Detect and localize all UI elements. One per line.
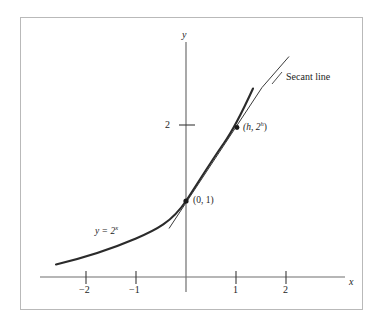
secant-line: [169, 88, 262, 229]
exponential-curve: [56, 89, 253, 265]
x-tick-label-1: 1: [233, 285, 238, 295]
point-secant-marker: [235, 125, 240, 130]
curve-label-base: y = 2: [95, 226, 115, 236]
secant-line-extension: [262, 57, 289, 88]
secant-point-suffix: ): [264, 122, 267, 132]
y-axis-label: y: [182, 30, 186, 40]
curve-label-exponent: x: [115, 224, 118, 231]
secant-point-label: (h, 2h): [243, 123, 267, 133]
figure-container: −2 −1 1 2 2 x y y = 2x Secant line (0, 1…: [0, 0, 380, 326]
x-axis-label: x: [349, 277, 353, 287]
curve-label: y = 2x: [95, 227, 118, 237]
x-tick-label-minus2: −2: [79, 285, 90, 295]
origin-point-label: (0, 1): [193, 196, 214, 206]
x-tick-label-2: 2: [283, 285, 288, 295]
y-tick-label-2: 2: [165, 120, 170, 130]
x-tick-label-minus1: −1: [129, 285, 140, 295]
secant-point-base: (h, 2: [243, 122, 260, 132]
graph-canvas: [0, 0, 380, 326]
point-origin-marker: [183, 198, 188, 203]
secant-line-label: Secant line: [286, 72, 330, 82]
